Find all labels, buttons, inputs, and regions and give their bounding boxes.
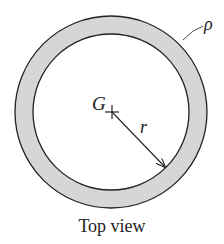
density-label: ρ xyxy=(203,14,213,34)
figure-caption: Top view xyxy=(0,216,224,237)
radius-arrow xyxy=(112,112,165,167)
center-label: G xyxy=(92,93,106,114)
ring-diagram: G r ρ xyxy=(0,0,224,244)
density-leader-line xyxy=(183,26,203,40)
radius-label: r xyxy=(140,117,148,137)
